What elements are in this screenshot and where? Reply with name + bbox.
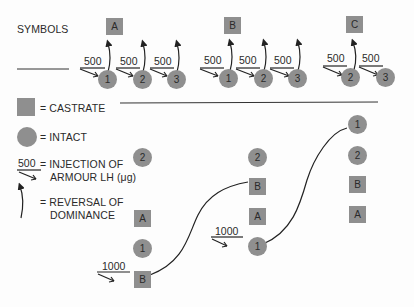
dose-label: 500	[84, 56, 102, 67]
intact-animal: 3	[288, 69, 307, 88]
hierarchy1-dose: 1000	[102, 261, 125, 272]
dose-label: 500	[327, 53, 345, 64]
hierarchy1-rank1: 2	[133, 148, 152, 167]
reversal-legend-label: = REVERSAL OF	[40, 196, 123, 208]
intact-animal: 2	[341, 68, 360, 87]
hierarchy1-rank3: 1	[133, 239, 152, 258]
hierarchy3-rank2: 2	[348, 146, 367, 165]
hierarchy2-rank2: B	[249, 178, 266, 195]
hierarchy2-rank4: 1	[248, 237, 267, 256]
intact-animal: 3	[167, 70, 186, 89]
castrate-C-top: C	[346, 16, 363, 33]
hierarchy3-rank1: 1	[348, 115, 367, 134]
dose-label: 500	[362, 53, 380, 64]
symbols-title: SYMBOLS	[17, 23, 68, 35]
dose-label: 500	[204, 55, 222, 66]
dose-label: 500	[239, 55, 257, 66]
hierarchy3-rank4: A	[349, 206, 366, 223]
hierarchy2-dose: 1000	[215, 226, 238, 237]
intact-animal: 3	[376, 68, 395, 87]
injection-legend-label: = INJECTION OF	[40, 158, 123, 170]
hierarchy3-rank3: B	[349, 176, 366, 193]
hierarchy1-rank4: B	[134, 271, 151, 288]
hierarchy2-rank3: A	[249, 208, 266, 225]
dose-label: 500	[274, 55, 292, 66]
dose-label: 500	[120, 56, 138, 67]
castrate-legend-square	[17, 98, 35, 116]
intact-animal: 2	[254, 69, 273, 88]
dose-label: 500	[154, 56, 172, 67]
hierarchy1-rank2: A	[134, 210, 151, 227]
castrate-B-top: B	[224, 17, 241, 34]
dominance-diagram: SYMBOLS = CASTRATE = INTACT 500 = INJECT…	[0, 0, 414, 307]
intact-animal: 2	[133, 70, 152, 89]
intact-animal: 1	[98, 70, 117, 89]
castrate-A-top: A	[106, 18, 123, 35]
injection-legend-dose: 500	[18, 158, 36, 169]
injection-legend-label-2: ARMOUR LH (μg)	[50, 171, 136, 183]
castrate-legend-label: = CASTRATE	[40, 102, 105, 114]
intact-animal: 1	[219, 69, 238, 88]
hierarchy2-rank1: 2	[248, 148, 267, 167]
intact-legend-circle	[17, 127, 37, 147]
intact-legend-label: = INTACT	[40, 131, 87, 143]
reversal-legend-label-2: DOMINANCE	[50, 209, 115, 221]
